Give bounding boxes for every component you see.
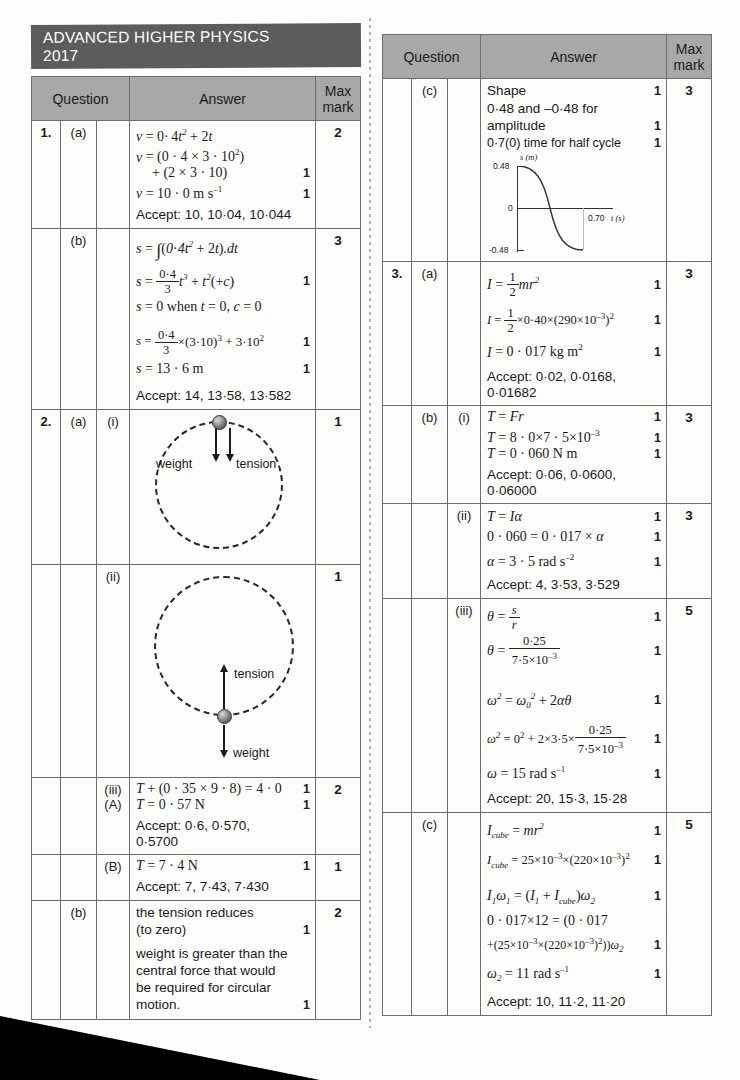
question-subpart — [448, 813, 481, 1016]
header-answer: Answer — [130, 77, 316, 121]
question-subpart — [448, 79, 481, 262]
accept-line-2: 0·5700 — [136, 834, 310, 849]
max-mark-value: 5 — [667, 598, 712, 812]
max-mark-value: 3 — [316, 228, 361, 409]
y-axis-label: s (m) — [520, 152, 537, 162]
question-number — [32, 900, 61, 1019]
answer-cell: I = 12mr21 I = 12×0·40×(290×10–3)21 I = … — [481, 262, 667, 406]
banner-line-1: ADVANCED HIGHER PHYSICS — [43, 27, 361, 47]
table-row: (ii) tension weight 1 — [32, 564, 361, 777]
answer-line: be required for circular — [136, 979, 275, 996]
header-answer: Answer — [481, 35, 667, 79]
answer-cell: T = Fr1 T = 8 · 0×7 · 5×10–31 T = 0 · 06… — [481, 406, 667, 504]
answer-cell-diagram: weight tension — [130, 409, 316, 564]
x-tick-label-end: 0.70 — [588, 213, 605, 223]
accept-line: Accept: 20, 15·3, 15·28 — [487, 786, 661, 807]
max-mark-value: 5 — [667, 813, 712, 1016]
question-subpart — [448, 262, 481, 406]
question-part — [412, 504, 448, 599]
y-tick-label-top: 0.48 — [493, 161, 510, 171]
answer-line: 0·7(0) time for half cycle — [487, 135, 625, 152]
table-row: (ii) T = Iα1 0 · 060 = 0 · 017 × α1 α = … — [383, 504, 712, 599]
question-number — [383, 406, 412, 504]
marking-table-right: Question Answer Max mark (c) Shape1 0·48… — [382, 34, 712, 1016]
accept-line: Accept: 4, 3·53, 3·529 — [487, 572, 661, 593]
question-part: (c) — [412, 813, 448, 1016]
max-mark-value: 1 — [316, 854, 361, 900]
question-number — [32, 564, 61, 777]
ball-icon — [217, 709, 232, 724]
question-part — [61, 564, 97, 777]
question-part — [412, 598, 448, 812]
answer-line: motion. — [136, 996, 184, 1013]
banner-line-2: 2017 — [43, 45, 361, 65]
header-max-mark: Max mark — [316, 77, 361, 121]
question-part: (a) — [412, 262, 448, 406]
max-mark-value: 2 — [316, 777, 361, 854]
question-number — [383, 598, 412, 812]
answer-line: Shape — [487, 82, 530, 99]
question-number — [32, 777, 61, 854]
table-row: (B) T = 7 · 4 N1 Accept: 7, 7·43, 7·430 … — [32, 854, 361, 900]
table-row: (b) s = ∫(0·4t2 + 2t).dt s = 0·43t3 + t2… — [32, 228, 361, 409]
tension-label: tension — [236, 457, 276, 471]
question-number — [32, 228, 61, 409]
answer-cell: the tension reduces (to zero)1 weight is… — [130, 900, 316, 1019]
question-part — [61, 854, 97, 900]
question-number — [383, 79, 412, 262]
answer-cell-with-chart: Shape1 0·48 and –0·48 for amplitude1 0·7… — [481, 79, 667, 262]
max-mark-value: 1 — [316, 409, 361, 564]
marking-table-left: Question Answer Max mark 1. (a) v = 0· 4… — [31, 76, 361, 1020]
dashed-circle — [155, 421, 283, 549]
question-number — [32, 854, 61, 900]
question-subpart: (i) — [448, 406, 481, 504]
table-row: (b) the tension reduces (to zero)1 weigh… — [32, 900, 361, 1019]
accept-line-2: 0·01682 — [487, 385, 661, 400]
header-question: Question — [32, 77, 130, 121]
document-title-banner: ADVANCED HIGHER PHYSICS 2017 — [31, 23, 361, 69]
x-axis-label: t (s) — [611, 213, 624, 223]
accept-line: Accept: 7, 7·43, 7·430 — [136, 874, 310, 895]
table-row: (c) Shape1 0·48 and –0·48 for amplitude1… — [383, 79, 712, 262]
header-max-line2: mark — [322, 99, 353, 115]
table-row: (c) Icube = mr21 Icube = 25×10–3×(220×10… — [383, 813, 712, 1016]
question-subpart: (ii) — [97, 564, 130, 777]
question-number: 1. — [32, 121, 61, 229]
accept-line: Accept: 14, 13·58, 13·582 — [136, 383, 310, 404]
question-subpart — [97, 228, 130, 409]
answer-line: amplitude — [487, 117, 550, 134]
question-number — [383, 504, 412, 599]
table-header-row: Question Answer Max mark — [32, 77, 361, 121]
tension-arrow-icon — [229, 428, 231, 455]
question-number: 2. — [32, 409, 61, 564]
question-subpart: (B) — [97, 854, 130, 900]
weight-arrow-icon — [223, 725, 225, 751]
circular-motion-diagram-top: weight tension — [136, 413, 310, 559]
subpart-roman: (iii) — [97, 782, 129, 797]
table-header-row: Question Answer Max mark — [383, 35, 712, 79]
answer-cell: Icube = mr21 Icube = 25×10–3×(220×10–3)2… — [481, 813, 667, 1016]
answer-line: (to zero) — [136, 921, 190, 938]
max-mark-value: 2 — [316, 121, 361, 229]
header-question: Question — [383, 35, 481, 79]
header-max-mark: Max mark — [667, 35, 712, 79]
question-subpart — [97, 900, 130, 1019]
question-part: (a) — [61, 121, 97, 229]
weight-label: weight — [233, 746, 269, 760]
question-part: (b) — [61, 900, 97, 1019]
accept-line: Accept: 10, 11·2, 11·20 — [487, 989, 661, 1010]
question-part — [61, 777, 97, 854]
table-row: 2. (a) (i) weight tension 1 — [32, 409, 361, 564]
answer-cell: θ = sr1 θ = 0·257·5×10–31 ω2 = ω02 + 2αθ… — [481, 598, 667, 812]
accept-line-2: 0·06000 — [487, 483, 661, 498]
max-mark-value: 3 — [667, 262, 712, 406]
question-subpart: (i) — [97, 409, 130, 564]
y-tick-label-mid: 0 — [508, 203, 513, 213]
header-max-line1: Max — [325, 83, 351, 99]
accept-line-1: Accept: 0·06, 0·0600, — [487, 462, 661, 483]
max-mark-value: 3 — [667, 79, 712, 262]
table-row: 3. (a) I = 12mr21 I = 12×0·40×(290×10–3)… — [383, 262, 712, 406]
question-part: (a) — [61, 409, 97, 564]
accept-line-1: Accept: 0·02, 0·0168, — [487, 364, 661, 385]
